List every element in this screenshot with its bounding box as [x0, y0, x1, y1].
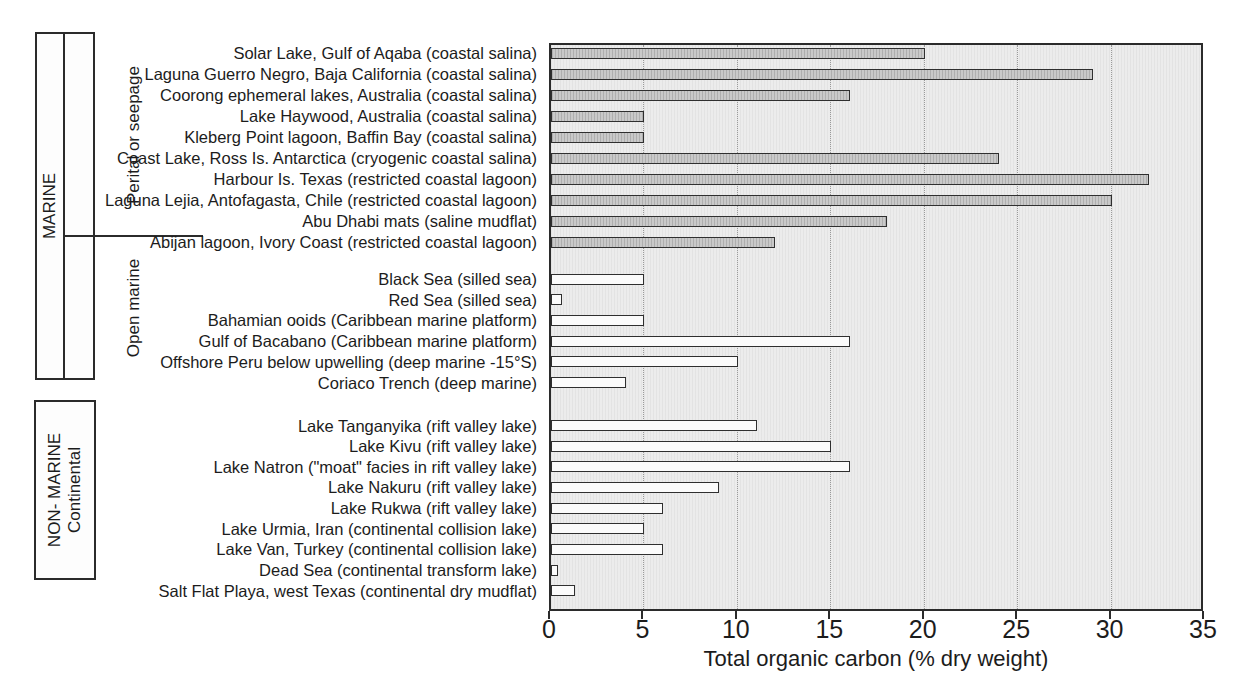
row-label: Lake Urmia, Iran (continental collision …	[0, 519, 537, 539]
x-tick-label: 30	[1075, 615, 1145, 644]
row-label: Lake Haywood, Australia (coastal salina)	[0, 106, 537, 126]
row-label: Lake Natron ("moat" facies in rift valle…	[0, 457, 537, 477]
bar	[551, 274, 644, 285]
bar	[551, 69, 1093, 80]
bar	[551, 315, 644, 326]
bar	[551, 441, 831, 452]
bar	[551, 461, 850, 472]
bar	[551, 420, 757, 431]
gridline-10	[737, 45, 738, 609]
row-label: Kleberg Point lagoon, Baffin Bay (coasta…	[0, 127, 537, 147]
row-label: Laguna Guerro Negro, Baja California (co…	[0, 64, 537, 84]
x-tick-label: 25	[981, 615, 1051, 644]
row-label: Harbour Is. Texas (restricted coastal la…	[0, 169, 537, 189]
row-label: Red Sea (silled sea)	[0, 290, 537, 310]
row-label: Dead Sea (continental transform lake)	[0, 560, 537, 580]
gridline-15	[830, 45, 831, 609]
bar	[551, 336, 850, 347]
gridline-20	[924, 45, 925, 609]
row-label: Lake Kivu (rift valley lake)	[0, 436, 537, 456]
bar	[551, 90, 850, 101]
bar	[551, 111, 644, 122]
bar	[551, 174, 1149, 185]
bar	[551, 216, 887, 227]
row-label: Lake Nakuru (rift valley lake)	[0, 477, 537, 497]
row-label: Coorong ephemeral lakes, Australia (coas…	[0, 85, 537, 105]
x-tick-label: 20	[888, 615, 958, 644]
bar	[551, 356, 738, 367]
row-label: Abijan lagoon, Ivory Coast (restricted c…	[0, 232, 537, 252]
bar	[551, 153, 999, 164]
bar	[551, 48, 925, 59]
row-label: Black Sea (silled sea)	[0, 269, 537, 289]
bar	[551, 565, 558, 576]
bar	[551, 585, 575, 596]
row-label: Coast Lake, Ross Is. Antarctica (cryogen…	[0, 148, 537, 168]
bar	[551, 523, 644, 534]
bar	[551, 195, 1112, 206]
bar	[551, 294, 562, 305]
row-label: Solar Lake, Gulf of Aqaba (coastal salin…	[0, 43, 537, 63]
bar	[551, 503, 663, 514]
bar	[551, 544, 663, 555]
row-label: Lake Rukwa (rift valley lake)	[0, 498, 537, 518]
row-label: Laguna Lejia, Antofagasta, Chile (restri…	[0, 190, 537, 210]
bar	[551, 377, 626, 388]
x-axis-title: Total organic carbon (% dry weight)	[549, 646, 1203, 672]
x-tick-label: 35	[1168, 615, 1238, 644]
bar	[551, 237, 775, 248]
gridline-30	[1111, 45, 1112, 609]
row-label: Bahamian ooids (Caribbean marine platfor…	[0, 310, 537, 330]
gridline-25	[1017, 45, 1018, 609]
row-label: Salt Flat Playa, west Texas (continental…	[0, 581, 537, 601]
row-label: Gulf of Bacabano (Caribbean marine platf…	[0, 331, 537, 351]
x-tick-label: 5	[607, 615, 677, 644]
row-label: Lake Tanganyika (rift valley lake)	[0, 416, 537, 436]
row-label: Offshore Peru below upwelling (deep mari…	[0, 352, 537, 372]
row-label: Lake Van, Turkey (continental collision …	[0, 539, 537, 559]
row-label: Abu Dhabi mats (saline mudflat)	[0, 211, 537, 231]
bar	[551, 482, 719, 493]
x-tick-label: 0	[514, 615, 584, 644]
plot-area	[549, 43, 1203, 611]
x-tick-label: 15	[794, 615, 864, 644]
x-tick-label: 10	[701, 615, 771, 644]
bar	[551, 132, 644, 143]
row-label: Coriaco Trench (deep marine)	[0, 373, 537, 393]
